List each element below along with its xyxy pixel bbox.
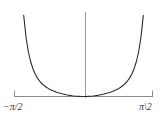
- x-axis-max-label: π\2: [139, 101, 152, 112]
- data-curve: [24, 15, 144, 96]
- plot-figure: −π/2 π\2: [0, 0, 167, 117]
- plot-canvas: [0, 0, 167, 117]
- x-axis-min-label: −π/2: [3, 101, 23, 112]
